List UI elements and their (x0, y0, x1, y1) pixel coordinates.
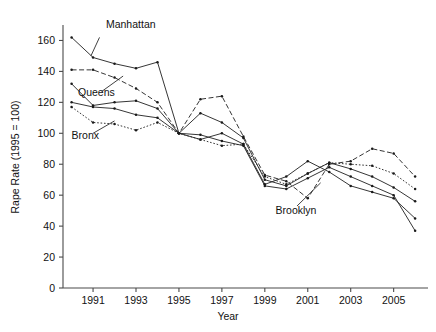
series-label-bronx: Bronx (72, 129, 100, 141)
y-tick-label-60: 60 (43, 189, 55, 201)
marker-series-5-1998 (242, 144, 245, 147)
marker-bronx-1999 (264, 178, 267, 181)
y-tick-label-140: 140 (37, 65, 55, 77)
marker-queens-2000 (285, 180, 288, 183)
marker-brooklyn-1996 (199, 138, 202, 141)
chart-container: 020406080100120140160 199119931995199719… (0, 0, 436, 332)
y-tick-label-160: 160 (37, 34, 55, 46)
marker-manhattan-1992 (113, 62, 116, 65)
marker-queens-1990 (70, 69, 73, 72)
marker-series-5-1990 (70, 101, 73, 104)
marker-series-5-1995 (178, 132, 181, 135)
marker-brooklyn-2002 (328, 161, 331, 164)
marker-brooklyn-1990 (70, 106, 73, 109)
marker-queens-2001 (307, 197, 310, 200)
marker-series-5-1994 (156, 117, 159, 120)
y-tick-label-0: 0 (49, 282, 55, 294)
y-tick-label-20: 20 (43, 251, 55, 263)
marker-manhattan-2002 (328, 171, 331, 174)
marker-queens-2003 (349, 160, 352, 163)
marker-brooklyn-2001 (307, 172, 310, 175)
marker-manhattan-1990 (70, 36, 73, 39)
marker-manhattan-1993 (135, 67, 138, 70)
marker-bronx-1990 (70, 83, 73, 86)
x-tick-label-1997: 1997 (210, 294, 234, 306)
marker-series-5-2005 (392, 194, 395, 197)
marker-series-5-1997 (221, 140, 224, 143)
marker-series-5-2002 (328, 166, 331, 169)
x-tick-label-2003: 2003 (339, 294, 363, 306)
marker-series-5-2001 (307, 177, 310, 180)
marker-series-5-2000 (285, 188, 288, 191)
marker-manhattan-2005 (392, 197, 395, 200)
marker-bronx-1993 (135, 100, 138, 103)
marker-brooklyn-2000 (285, 183, 288, 186)
marker-brooklyn-1992 (113, 123, 116, 126)
y-tick-label-40: 40 (43, 220, 55, 232)
marker-brooklyn-2006 (414, 188, 417, 191)
marker-series-5-2003 (349, 175, 352, 178)
marker-manhattan-1991 (92, 56, 95, 59)
y-tick-label-80: 80 (43, 158, 55, 170)
x-tick-label-2005: 2005 (382, 294, 406, 306)
marker-series-5-2004 (371, 185, 374, 188)
marker-brooklyn-1991 (92, 121, 95, 124)
x-tick-label-1991: 1991 (81, 294, 105, 306)
marker-series-5-1992 (113, 107, 116, 110)
rape-rate-line-chart: 020406080100120140160 199119931995199719… (0, 0, 436, 332)
x-tick-label-1995: 1995 (167, 294, 191, 306)
x-tick-label-1999: 1999 (253, 294, 277, 306)
marker-queens-2004 (371, 148, 374, 151)
marker-series-5-1993 (135, 113, 138, 116)
marker-bronx-1992 (113, 101, 116, 104)
marker-queens-1996 (199, 98, 202, 101)
marker-brooklyn-2004 (371, 165, 374, 168)
marker-series-5-1999 (264, 185, 267, 188)
marker-queens-1994 (156, 101, 159, 104)
marker-queens-2006 (414, 175, 417, 178)
marker-series-5-1996 (199, 134, 202, 137)
series-label-manhattan: Manhattan (106, 18, 156, 30)
y-tick-label-120: 120 (37, 96, 55, 108)
marker-brooklyn-1999 (264, 175, 267, 178)
marker-brooklyn-2003 (349, 163, 352, 166)
marker-manhattan-2000 (285, 175, 288, 178)
marker-manhattan-2006 (414, 217, 417, 220)
marker-bronx-2006 (414, 200, 417, 203)
marker-brooklyn-1997 (221, 144, 224, 147)
marker-bronx-1994 (156, 107, 159, 110)
marker-manhattan-1997 (221, 132, 224, 135)
marker-brooklyn-1994 (156, 121, 159, 124)
series-label-brooklyn: Brooklyn (276, 204, 317, 216)
marker-bronx-1998 (242, 137, 245, 140)
marker-manhattan-2003 (349, 185, 352, 188)
marker-bronx-1997 (221, 121, 224, 124)
marker-series-5-1991 (92, 106, 95, 109)
x-axis-title: Year (217, 310, 239, 322)
marker-queens-1997 (221, 95, 224, 98)
marker-bronx-1996 (199, 112, 202, 115)
marker-manhattan-1994 (156, 61, 159, 64)
marker-queens-2005 (392, 152, 395, 155)
marker-queens-1993 (135, 87, 138, 90)
y-tick-label-100: 100 (37, 127, 55, 139)
marker-bronx-2005 (392, 186, 395, 189)
marker-manhattan-2004 (371, 191, 374, 194)
series-label-queens: Queens (78, 86, 115, 98)
marker-queens-1992 (113, 76, 116, 79)
x-tick-label-2001: 2001 (296, 294, 320, 306)
x-tick-label-1993: 1993 (124, 294, 148, 306)
y-axis-title: Rape Rate (1995 = 100) (9, 101, 21, 214)
marker-bronx-2004 (371, 175, 374, 178)
marker-series-5-2006 (414, 230, 417, 233)
marker-queens-1991 (92, 69, 95, 72)
marker-manhattan-2001 (307, 160, 310, 163)
marker-bronx-2003 (349, 168, 352, 171)
marker-brooklyn-2005 (392, 172, 395, 175)
marker-brooklyn-1993 (135, 129, 138, 132)
